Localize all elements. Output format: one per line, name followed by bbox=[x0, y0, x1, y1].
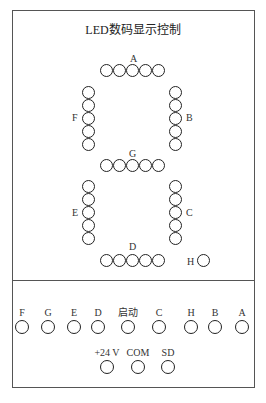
terminal-f[interactable]: F bbox=[14, 308, 30, 334]
led-icon bbox=[169, 138, 182, 151]
terminal-jack-icon[interactable] bbox=[235, 320, 249, 334]
led-icon bbox=[197, 254, 210, 267]
led-icon bbox=[139, 159, 152, 172]
terminal-jack-icon[interactable] bbox=[184, 320, 198, 334]
led-icon bbox=[113, 159, 126, 172]
terminal-jack-icon[interactable] bbox=[100, 360, 114, 374]
terminal-label: C bbox=[141, 308, 177, 318]
segment-f[interactable] bbox=[82, 86, 95, 151]
segment-f-label: F bbox=[72, 113, 78, 123]
led-icon bbox=[82, 219, 95, 232]
segment-h[interactable] bbox=[197, 254, 210, 267]
segment-c[interactable] bbox=[169, 180, 182, 245]
segment-h-label: H bbox=[187, 257, 194, 267]
terminal-b[interactable]: B bbox=[207, 308, 223, 334]
terminal-jack-icon[interactable] bbox=[161, 360, 175, 374]
segment-b[interactable] bbox=[169, 86, 182, 151]
segment-a-label: A bbox=[130, 54, 137, 64]
terminal-start[interactable]: 启动 bbox=[120, 308, 136, 334]
led-icon bbox=[152, 64, 165, 77]
led-icon bbox=[169, 180, 182, 193]
terminal-jack-icon[interactable] bbox=[131, 360, 145, 374]
terminal-jack-icon[interactable] bbox=[208, 320, 222, 334]
terminal-a[interactable]: A bbox=[234, 308, 250, 334]
segment-g[interactable] bbox=[100, 159, 165, 172]
terminal-c[interactable]: C bbox=[151, 308, 167, 334]
led-icon bbox=[113, 64, 126, 77]
led-icon bbox=[82, 125, 95, 138]
terminal-jack-icon[interactable] bbox=[121, 320, 135, 334]
led-icon bbox=[152, 254, 165, 267]
led-icon bbox=[82, 86, 95, 99]
led-icon bbox=[113, 254, 126, 267]
led-icon bbox=[169, 125, 182, 138]
segment-c-label: C bbox=[186, 208, 193, 218]
led-icon bbox=[139, 64, 152, 77]
led-icon bbox=[169, 112, 182, 125]
led-icon bbox=[100, 254, 113, 267]
terminal-com[interactable]: COM bbox=[130, 348, 146, 374]
led-icon bbox=[169, 232, 182, 245]
terminal-24v[interactable]: +24 V bbox=[99, 348, 115, 374]
terminal-jack-icon[interactable] bbox=[67, 320, 81, 334]
terminal-jack-icon[interactable] bbox=[152, 320, 166, 334]
segment-d[interactable] bbox=[100, 254, 165, 267]
panel-divider bbox=[12, 280, 255, 281]
led-icon bbox=[169, 219, 182, 232]
led-icon bbox=[152, 159, 165, 172]
led-icon bbox=[100, 159, 113, 172]
segment-e-label: E bbox=[72, 208, 78, 218]
led-icon bbox=[169, 193, 182, 206]
terminal-jack-icon[interactable] bbox=[91, 320, 105, 334]
segment-g-label: G bbox=[129, 149, 136, 159]
led-icon bbox=[139, 254, 152, 267]
segment-b-label: B bbox=[186, 113, 193, 123]
led-icon bbox=[82, 138, 95, 151]
led-icon bbox=[82, 180, 95, 193]
segment-d-label: D bbox=[129, 242, 136, 252]
led-icon bbox=[169, 206, 182, 219]
led-icon bbox=[100, 64, 113, 77]
led-icon bbox=[82, 112, 95, 125]
led-icon bbox=[82, 206, 95, 219]
terminal-jack-icon[interactable] bbox=[15, 320, 29, 334]
led-icon bbox=[82, 193, 95, 206]
led-icon bbox=[82, 99, 95, 112]
terminal-label: A bbox=[224, 308, 260, 318]
segment-e[interactable] bbox=[82, 180, 95, 245]
segment-a[interactable] bbox=[100, 64, 165, 77]
terminal-label: SD bbox=[150, 348, 186, 358]
terminal-g[interactable]: G bbox=[40, 308, 56, 334]
led-icon bbox=[126, 254, 139, 267]
led-icon bbox=[169, 99, 182, 112]
terminal-d[interactable]: D bbox=[90, 308, 106, 334]
led-icon bbox=[126, 64, 139, 77]
panel-title: LED数码显示控制 bbox=[0, 20, 266, 38]
led-icon bbox=[169, 86, 182, 99]
terminal-sd[interactable]: SD bbox=[160, 348, 176, 374]
terminal-jack-icon[interactable] bbox=[41, 320, 55, 334]
led-icon bbox=[82, 232, 95, 245]
led-icon bbox=[126, 159, 139, 172]
